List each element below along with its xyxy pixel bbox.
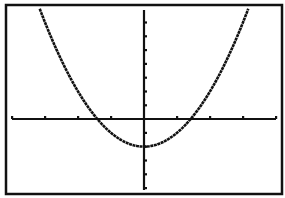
calculator-graph-screen	[0, 0, 285, 198]
y-tick	[144, 77, 147, 79]
x-tick	[242, 116, 244, 119]
x-tick	[77, 116, 79, 119]
x-tick	[11, 116, 13, 119]
y-tick	[144, 49, 147, 51]
graph-plot	[0, 0, 285, 198]
y-tick	[144, 104, 147, 106]
y-tick	[144, 187, 147, 189]
x-tick	[110, 116, 112, 119]
x-tick	[176, 116, 178, 119]
y-tick	[144, 90, 147, 92]
y-tick	[144, 35, 147, 37]
y-tick	[144, 159, 147, 161]
x-tick	[44, 116, 46, 119]
x-tick	[209, 116, 211, 119]
x-tick	[275, 116, 277, 119]
y-tick	[144, 132, 147, 134]
y-tick	[144, 173, 147, 175]
y-tick	[144, 21, 147, 23]
y-tick	[144, 63, 147, 65]
